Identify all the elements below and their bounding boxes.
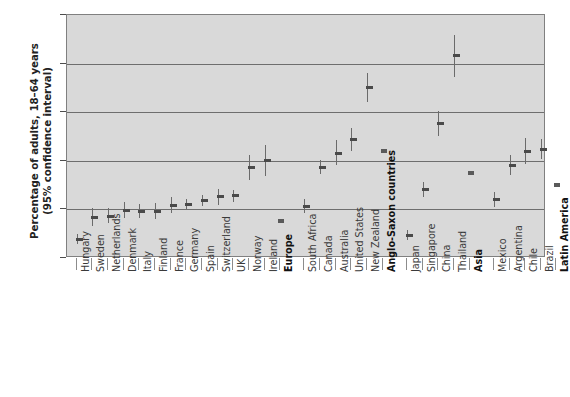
data-point-marker [201,199,208,202]
x-axis-category-label: Singapore [426,224,437,272]
x-axis-category-label: Spain [205,245,216,272]
x-axis-category-label: Mexico [497,239,508,273]
x-axis-category-label: Anglo-Saxon countries [386,150,397,272]
x-axis-category-label: Australia [339,230,350,272]
x-axis-tick-mark [123,258,124,270]
x-axis-category-label: Ireland [268,239,279,272]
x-axis-category-label: Japan [410,245,421,272]
data-point-marker [185,203,192,206]
data-point-marker [524,150,531,153]
x-axis-category-label: Germany [189,228,200,272]
x-axis-category-label: Europe [283,234,294,272]
data-point-marker [422,188,429,191]
data-point-marker [248,166,255,169]
x-axis-tick-mark [217,258,218,270]
data-point-marker [217,195,224,198]
x-axis-category-label: Brazil [544,245,555,272]
plot-area [66,14,545,257]
x-axis-category-label: France [174,240,185,272]
x-axis-tick-mark [350,258,351,270]
x-axis-tick-mark [335,258,336,270]
x-axis-tick-mark [524,258,525,270]
x-axis-tick-mark [406,258,407,270]
x-axis-category-label: Latin America [559,197,570,272]
data-point-marker [468,171,474,175]
data-point-marker [170,204,177,207]
x-axis-category-label: Norway [252,236,263,272]
x-axis-category-label: Chile [528,248,539,272]
data-point-marker [350,138,357,141]
data-point-marker [319,166,326,169]
x-axis-tick-mark [493,258,494,270]
x-axis-tick-mark [366,258,367,270]
x-axis-category-label: Denmark [127,228,138,272]
data-point-marker [278,219,284,223]
y-axis-title: Percentage of adults, 18–64 years (95% c… [28,16,54,266]
gridline [67,64,544,65]
x-axis-tick-mark [138,258,139,270]
x-axis-tick-mark [248,258,249,270]
x-axis-tick-mark [469,258,470,270]
data-point-marker [437,122,444,125]
x-axis-tick-mark [509,258,510,270]
x-axis-tick-mark [303,258,304,270]
data-point-marker [509,164,516,167]
x-axis-category-label: Asia [473,249,484,272]
data-point-marker [493,198,500,201]
x-axis-category-label: Argentina [513,225,524,272]
x-axis-category-label: Sweden [95,234,106,272]
x-axis-category-label: Switzerland [221,216,232,272]
x-axis-tick-mark [107,258,108,270]
x-axis-tick-mark [232,258,233,270]
x-axis-tick-mark [170,258,171,270]
y-axis-title-line-2: (95% confidence interval) [41,16,54,266]
x-axis-category-label: Finland [158,238,169,272]
x-axis-tick-mark [185,258,186,270]
data-point-marker [264,159,271,162]
x-axis-tick-mark [437,258,438,270]
data-point-marker [540,148,547,151]
x-axis-tick-mark [154,258,155,270]
x-axis-tick-mark [201,258,202,270]
x-axis-tick-mark [453,258,454,270]
data-point-marker [91,216,98,219]
x-axis-category-label: Italy [142,251,153,272]
x-axis-tick-mark [91,258,92,270]
data-point-marker [406,234,413,237]
x-axis-tick-mark [76,258,77,270]
gridline [67,161,544,162]
x-axis-category-label: Hungary [80,231,91,272]
x-axis-category-label: New Zealand [370,209,381,272]
data-point-marker [154,210,161,213]
data-point-marker [232,194,239,197]
x-axis-category-label: Canada [323,235,334,272]
data-point-marker [138,210,145,213]
x-axis-tick-mark [279,258,280,270]
y-axis-title-line-1: Percentage of adults, 18–64 years [29,43,40,239]
x-axis-category-label: Thailand [457,231,468,272]
x-axis-tick-mark [422,258,423,270]
y-axis-tick-mark [60,257,66,258]
x-axis-category-label: South Africa [307,214,318,272]
data-point-marker [554,183,560,187]
x-axis-tick-mark [540,258,541,270]
x-axis-category-label: UK [236,259,247,272]
x-axis-category-label: Netherlands [111,214,122,272]
x-axis-category-label: United States [354,207,365,272]
data-point-marker [335,152,342,155]
data-point-marker [303,205,310,208]
gridline [67,112,544,113]
x-axis-tick-mark [319,258,320,270]
data-point-marker [453,54,460,57]
data-point-marker [366,86,373,89]
x-axis-tick-mark [555,258,556,270]
data-point-marker [123,209,130,212]
x-axis-tick-mark [264,258,265,270]
x-axis-tick-mark [382,258,383,270]
x-axis-category-label: China [441,245,452,272]
